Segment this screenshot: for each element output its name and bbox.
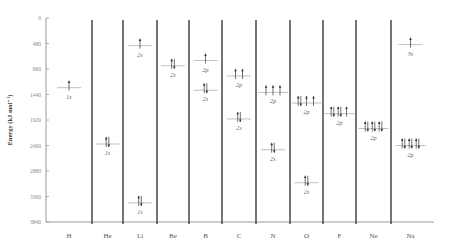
orbital-label: 3s	[407, 51, 414, 57]
element-label-ne: Ne	[369, 232, 377, 240]
y-tick-label: 2880	[30, 168, 41, 174]
y-tick-label: 1440	[30, 92, 41, 98]
y-tick-label: 3840	[30, 219, 41, 225]
orbital-label: 2s	[170, 72, 176, 78]
orbital-b-2s: 2s	[194, 83, 218, 102]
element-label-n: N	[270, 232, 275, 240]
orbital-label: 2p	[203, 67, 209, 73]
orbital-n-2p: 2p	[258, 85, 288, 104]
orbital-label: 1s	[105, 150, 111, 156]
orbital-h-1s: 1s	[57, 81, 81, 100]
element-label-be: Be	[169, 232, 177, 240]
element-label-o: O	[304, 232, 309, 240]
orbital-be-2s: 2s	[161, 59, 185, 78]
orbital-he-1s: 1s	[96, 137, 120, 156]
y-axis-title: Energy (kJ mol⁻¹)	[6, 94, 14, 145]
orbital-na-2p: 2p	[396, 139, 426, 158]
element-label-na: Na	[406, 232, 415, 240]
orbital-b-2p: 2p	[194, 54, 218, 73]
element-label-b: B	[203, 232, 208, 240]
orbital-label: 1s	[137, 209, 143, 215]
y-tick-label: 1920	[30, 117, 41, 123]
element-label-li: Li	[137, 232, 143, 240]
orbital-o-2s: 2s	[295, 176, 319, 195]
orbital-label: 2s	[137, 52, 143, 58]
orbital-li-1s: 1s	[128, 196, 152, 215]
orbital-label: 2p	[236, 82, 242, 88]
orbital-c-2p: 2p	[227, 69, 251, 88]
element-label-he: He	[103, 232, 111, 240]
orbital-ne-2p: 2p	[359, 122, 389, 141]
y-tick-label: 480	[33, 41, 42, 47]
orbital-label: 2s	[236, 125, 242, 131]
y-axis: 0480960144019202400288033603840	[30, 15, 434, 225]
orbital-label: 2p	[371, 135, 377, 141]
orbital-n-2s: 2s	[261, 143, 285, 162]
orbital-label: 2p	[304, 109, 310, 115]
y-tick-label: 3360	[30, 194, 41, 200]
orbital-label: 2s	[270, 156, 276, 162]
orbital-o-2p: 2p	[292, 96, 322, 115]
orbital-label: 1s	[66, 94, 72, 100]
orbital-c-2s: 2s	[227, 112, 251, 131]
orbital-label: 2s	[304, 189, 310, 195]
element-label-f: F	[338, 232, 342, 240]
element-dividers	[92, 20, 391, 224]
orbital-label: 2p	[337, 120, 343, 126]
element-labels: HHeLiBeBCNOFNeNa	[66, 232, 415, 240]
orbital-label: 2s	[203, 96, 209, 102]
orbital-label: 2p	[270, 98, 276, 104]
orbital-label: 2p	[408, 152, 414, 158]
y-tick-label: 2400	[30, 143, 41, 149]
y-tick-label: 960	[33, 66, 42, 72]
y-tick-label: 0	[38, 15, 41, 21]
orbital-li-2s: 2s	[128, 39, 152, 58]
orbital-na-3s: 3s	[399, 38, 423, 57]
element-label-c: C	[237, 232, 242, 240]
orbital-levels: 1s1s2s1s2s2p2s2p2s2p2s2p2s2p2p3s2p	[57, 38, 426, 215]
element-label-h: H	[66, 232, 71, 240]
orbital-f-2p: 2p	[325, 107, 355, 126]
energy-level-diagram: 0480960144019202400288033603840 1s1s2s1s…	[0, 0, 457, 249]
